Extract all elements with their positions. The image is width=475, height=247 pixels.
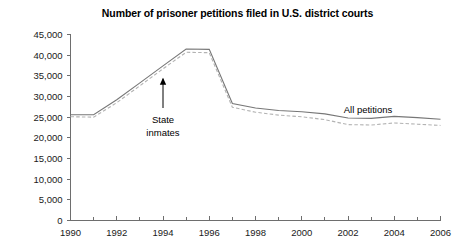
x-tick-label: 1994 xyxy=(152,227,173,238)
y-tick-label: 35,000 xyxy=(33,70,62,81)
x-tick-label: 2006 xyxy=(430,227,451,238)
y-tick-label: 25,000 xyxy=(33,112,62,123)
state-inmates-label-line1: State xyxy=(152,114,174,125)
y-tick-label: 15,000 xyxy=(33,153,62,164)
y-tick-label: 40,000 xyxy=(33,50,62,61)
chart-container: Number of prisoner petitions filed in U.… xyxy=(0,0,475,247)
y-tick-label: 20,000 xyxy=(33,132,62,143)
state-inmates-arrow-head xyxy=(160,78,166,85)
x-axis: 199019921994199619982000200220042006 xyxy=(60,216,451,238)
x-tick-label: 2000 xyxy=(291,227,312,238)
x-tick-label: 1996 xyxy=(199,227,220,238)
line-chart-plot: 05,00010,00015,00020,00025,00030,00035,0… xyxy=(0,0,475,247)
all-petitions-label: All petitions xyxy=(344,104,393,115)
y-tick-label: 5,000 xyxy=(39,194,63,205)
y-tick-label: 45,000 xyxy=(33,29,62,40)
state-inmates-label-line2: inmates xyxy=(146,127,180,138)
x-tick-label: 2004 xyxy=(384,227,405,238)
y-tick-label: 10,000 xyxy=(33,174,62,185)
x-tick-label: 1990 xyxy=(60,227,81,238)
y-tick-label: 30,000 xyxy=(33,91,62,102)
x-tick-label: 2002 xyxy=(337,227,358,238)
x-tick-label: 1992 xyxy=(106,227,127,238)
y-tick-label: 0 xyxy=(57,215,62,226)
x-tick-label: 1998 xyxy=(245,227,266,238)
y-axis: 05,00010,00015,00020,00025,00030,00035,0… xyxy=(33,29,70,226)
annotations-group: StateinmatesAll petitions xyxy=(146,78,392,138)
